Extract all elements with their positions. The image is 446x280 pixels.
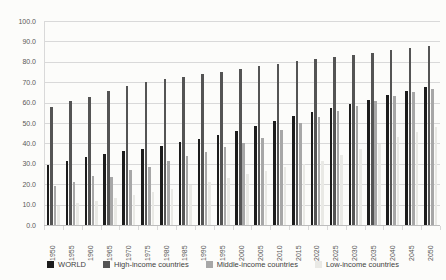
x-tick xyxy=(308,226,309,230)
gridline xyxy=(44,82,440,83)
x-tick-label: 2030 xyxy=(351,227,359,261)
bar-2005-world xyxy=(254,126,257,225)
x-tick-label: 1990 xyxy=(200,227,208,261)
bar-2020-world xyxy=(311,112,314,225)
bar-1990-middle-income-countries xyxy=(205,152,208,225)
bar-1980-low-income-countries xyxy=(171,189,174,225)
bar-1970-high-income-countries xyxy=(126,86,129,225)
x-tick-label: 1960 xyxy=(87,227,95,261)
x-tick-label: 1975 xyxy=(144,227,152,261)
x-tick xyxy=(383,226,384,230)
bar-2030-world xyxy=(349,104,352,225)
bar-1990-world xyxy=(198,139,201,225)
bar-2015-low-income-countries xyxy=(303,164,306,225)
x-tick-label: 2020 xyxy=(313,227,321,261)
gridline xyxy=(44,123,440,124)
bar-2020-middle-income-countries xyxy=(318,117,321,225)
bar-2020-high-income-countries xyxy=(314,59,317,225)
x-tick xyxy=(157,226,158,230)
bar-1955-high-income-countries xyxy=(69,101,72,225)
bar-2010-middle-income-countries xyxy=(280,130,283,225)
bar-2035-world xyxy=(367,100,370,225)
bar-1970-world xyxy=(122,151,125,225)
bar-2005-high-income-countries xyxy=(258,66,261,225)
bar-1995-world xyxy=(217,135,220,225)
bar-2025-world xyxy=(330,108,333,225)
x-tick-label: 2040 xyxy=(389,227,397,261)
bar-2015-middle-income-countries xyxy=(299,123,302,225)
bar-1990-high-income-countries xyxy=(201,74,204,225)
x-tick-label: 1955 xyxy=(68,227,76,261)
x-tick xyxy=(138,226,139,230)
bar-1980-high-income-countries xyxy=(164,79,167,225)
x-tick-label: 1950 xyxy=(49,227,57,261)
x-tick xyxy=(44,226,45,230)
bar-1985-world xyxy=(179,142,182,225)
bar-1960-high-income-countries xyxy=(88,97,91,225)
x-tick xyxy=(346,226,347,230)
bar-1975-world xyxy=(141,149,144,225)
x-tick-label: 2000 xyxy=(238,227,246,261)
x-tick xyxy=(63,226,64,230)
x-tick-label: 2035 xyxy=(370,227,378,261)
bar-1960-world xyxy=(85,157,88,225)
y-tick-label: 100.0 xyxy=(2,18,36,25)
bar-1950-world xyxy=(47,165,50,225)
x-tick xyxy=(270,226,271,230)
bar-2000-high-income-countries xyxy=(239,69,242,225)
bar-1965-high-income-countries xyxy=(107,91,110,225)
bar-1985-low-income-countries xyxy=(189,185,192,225)
x-tick xyxy=(176,226,177,230)
bar-2040-world xyxy=(386,95,389,225)
bar-2010-low-income-countries xyxy=(284,167,287,225)
bar-2030-middle-income-countries xyxy=(356,106,359,225)
bar-2040-middle-income-countries xyxy=(393,96,396,225)
bar-2015-world xyxy=(292,116,295,225)
x-tick xyxy=(195,226,196,230)
bar-2045-low-income-countries xyxy=(416,132,419,225)
bar-1965-low-income-countries xyxy=(114,198,117,225)
gridline xyxy=(44,41,440,42)
bar-2010-world xyxy=(273,121,276,225)
y-tick-label: 10.0 xyxy=(2,201,36,208)
legend-label: WORLD xyxy=(58,260,86,269)
legend-label: High-income countries xyxy=(114,260,189,269)
legend-item-world: WORLD xyxy=(47,260,86,269)
bar-1970-middle-income-countries xyxy=(129,170,132,225)
bar-2000-middle-income-countries xyxy=(242,143,245,225)
y-tick-label: 70.0 xyxy=(2,79,36,86)
x-tick xyxy=(119,226,120,230)
bar-2005-low-income-countries xyxy=(265,171,268,225)
x-tick-label: 2025 xyxy=(332,227,340,261)
legend-item-low-income-countries: Low-income countries xyxy=(315,260,399,269)
bar-2040-high-income-countries xyxy=(390,50,393,225)
bar-1955-middle-income-countries xyxy=(73,182,76,225)
bar-2035-middle-income-countries xyxy=(374,101,377,225)
x-tick-label: 1965 xyxy=(106,227,114,261)
bar-1965-middle-income-countries xyxy=(110,177,113,225)
bar-2045-high-income-countries xyxy=(409,48,412,225)
legend-swatch-icon xyxy=(47,261,54,268)
y-tick-label: 20.0 xyxy=(2,181,36,188)
bar-2000-low-income-countries xyxy=(246,174,249,225)
x-tick xyxy=(251,226,252,230)
x-tick-label: 1980 xyxy=(163,227,171,261)
legend-swatch-icon xyxy=(103,261,110,268)
gridline xyxy=(44,62,440,63)
y-axis-line xyxy=(44,21,45,225)
x-tick xyxy=(421,226,422,230)
gridline xyxy=(44,21,440,22)
bar-2045-middle-income-countries xyxy=(412,92,415,225)
bar-1995-middle-income-countries xyxy=(224,147,227,225)
chart-legend: WORLDHigh-income countriesMiddle-income … xyxy=(0,257,446,271)
bar-2050-high-income-countries xyxy=(428,46,431,225)
bar-2020-low-income-countries xyxy=(321,161,324,225)
bar-1985-high-income-countries xyxy=(182,77,185,225)
x-tick xyxy=(327,226,328,230)
x-tick xyxy=(289,226,290,230)
x-axis-line xyxy=(44,225,440,226)
bar-2000-world xyxy=(235,131,238,225)
y-tick-label: 0.0 xyxy=(2,222,36,229)
bar-1955-world xyxy=(66,161,69,225)
bar-2035-low-income-countries xyxy=(378,144,381,225)
